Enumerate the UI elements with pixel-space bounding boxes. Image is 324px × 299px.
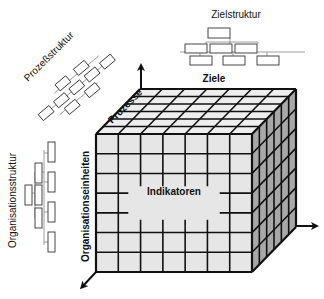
- axis-label-goals: Ziele: [203, 73, 226, 84]
- process-structure-title: Prozeßstruktur: [22, 29, 77, 84]
- org-box: [35, 163, 42, 183]
- goal-structure: Zielstruktur: [180, 9, 305, 65]
- axis-arrow-down-left: [82, 272, 96, 287]
- organization-structure-chart: [25, 142, 55, 252]
- process-box: [99, 54, 115, 69]
- axis-label-organizational-units: Organisationseinheiten: [80, 151, 91, 262]
- goal-structure-chart: [180, 28, 305, 65]
- org-box: [48, 232, 55, 252]
- process-box: [84, 83, 100, 98]
- org-box: [35, 208, 42, 228]
- process-box: [38, 106, 54, 121]
- org-box: [48, 202, 55, 222]
- goal-box: [235, 44, 257, 53]
- goal-box: [223, 56, 245, 65]
- org-box: [48, 142, 55, 162]
- center-label-indicators: Indikatoren: [147, 186, 201, 197]
- goal-box: [210, 44, 232, 53]
- cube-diagram: Zielstruktur Prozeßstruktur: [0, 0, 324, 299]
- organization-structure: Organisationsstruktur: [7, 142, 55, 252]
- cube: [96, 89, 296, 272]
- org-box: [25, 185, 32, 205]
- goal-box: [185, 44, 207, 53]
- goal-structure-title: Zielstruktur: [211, 9, 261, 20]
- org-box: [35, 185, 42, 205]
- organization-structure-title: Organisationsstruktur: [7, 152, 18, 248]
- goal-box: [208, 28, 230, 38]
- goal-box: [190, 56, 212, 65]
- org-box: [48, 172, 55, 192]
- goal-box: [257, 56, 279, 65]
